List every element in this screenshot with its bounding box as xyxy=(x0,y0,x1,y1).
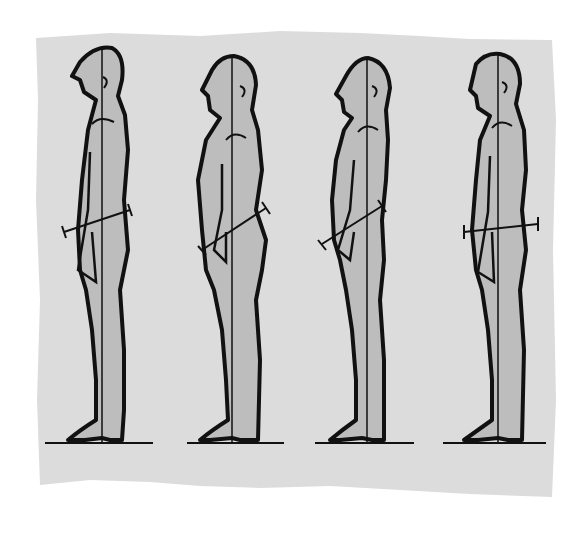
posture-illustration xyxy=(0,0,588,540)
